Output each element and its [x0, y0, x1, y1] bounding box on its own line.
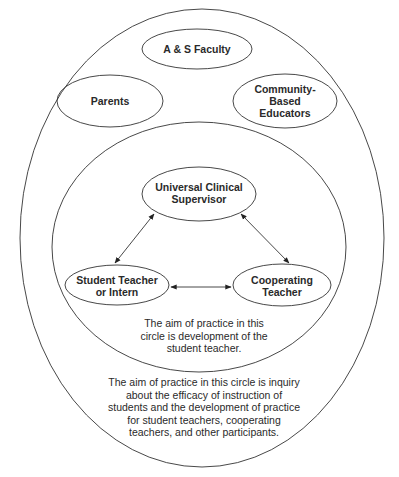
caption-line: The aim of practice in this circle is in…: [108, 376, 300, 389]
label-line: Supervisor: [155, 193, 243, 205]
label-line: or Intern: [76, 286, 158, 298]
caption-line: for student teachers, cooperating: [108, 414, 300, 427]
caption-line: circle is development of the: [140, 330, 267, 343]
inner-circle-caption: The aim of practice in this circle is de…: [140, 317, 267, 355]
caption-line: about the efficacy of instruction of: [108, 389, 300, 402]
arrow-supervisor-cooperating: [241, 214, 289, 263]
arrow-supervisor-student: [115, 214, 154, 263]
caption-line: students and the development of practice: [108, 401, 300, 414]
label-line: Educators: [254, 107, 315, 119]
label-line: Student Teacher: [76, 274, 158, 286]
label-line: Universal Clinical: [155, 181, 243, 193]
label-community-based-educators: Community- Based Educators: [254, 83, 315, 119]
caption-line: The aim of practice in this: [140, 317, 267, 330]
outer-circle-caption: The aim of practice in this circle is in…: [108, 376, 300, 439]
caption-line: student teacher.: [140, 342, 267, 355]
label-line: Cooperating: [251, 274, 313, 286]
caption-line: teachers, and other participants.: [108, 426, 300, 439]
label-parents: Parents: [91, 95, 130, 107]
label-universal-clinical-supervisor: Universal Clinical Supervisor: [155, 181, 243, 205]
label-as-faculty: A & S Faculty: [163, 43, 230, 55]
label-line: Based: [254, 95, 315, 107]
label-line: Community-: [254, 83, 315, 95]
label-cooperating-teacher: Cooperating Teacher: [251, 274, 313, 298]
label-line: Teacher: [251, 286, 313, 298]
label-student-teacher: Student Teacher or Intern: [76, 274, 158, 298]
